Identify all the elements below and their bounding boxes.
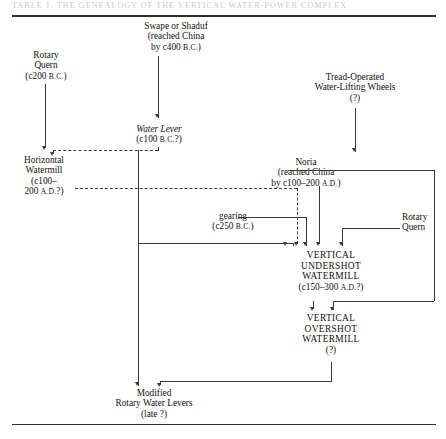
edge-horizontal-watermill-to-undershot-dashed bbox=[75, 188, 297, 189]
overshot-line2: OVERSHOT bbox=[261, 324, 401, 335]
node-vertical-undershot-watermill: VERTICAL UNDERSHOT WATERMILL (c150–300 A… bbox=[261, 250, 401, 292]
overshot-line3: WATERMILL bbox=[261, 334, 401, 345]
swape-title: Swape or Shaduf bbox=[96, 21, 256, 31]
edge-right-rail-vertical bbox=[434, 170, 435, 301]
rq-right-line2: Quern bbox=[402, 222, 446, 232]
edge-gearing-to-undershot bbox=[238, 217, 306, 218]
rq-top-line1: Rotary bbox=[5, 50, 87, 60]
arrowhead-undershot-to-overshot bbox=[310, 307, 314, 311]
undershot-line2: UNDERSHOT bbox=[261, 261, 401, 272]
swape-line2: (reached China bbox=[96, 31, 256, 41]
edge-right-rail-to-overshot bbox=[333, 301, 434, 302]
edge-trunk-branch-drop bbox=[293, 243, 294, 246]
arrowhead-right-rail-to-overshot bbox=[330, 307, 334, 311]
arrowhead-swape-to-water-lever bbox=[155, 114, 159, 118]
water-lever-date: (c100 B.C.?) bbox=[93, 134, 225, 145]
node-gearing: gearing (c250 B.C.) bbox=[196, 211, 270, 232]
node-rotary-quern-top: Rotary Quern (c200 B.C.) bbox=[5, 50, 87, 81]
edge-horizontal-watermill-dashed-drop bbox=[297, 188, 298, 244]
edge-rotary-quern-right-to-undershot bbox=[342, 228, 400, 229]
edge-overshot-to-modified-run bbox=[160, 381, 331, 382]
horiz-line3: (c100– bbox=[4, 176, 84, 186]
arrowhead-tread-wheels-to-noria bbox=[352, 148, 356, 152]
edge-trunk-branch-to-undershot bbox=[138, 243, 293, 244]
noria-line2: (reached China bbox=[250, 167, 362, 177]
arrowhead-trunk-to-modified-levers bbox=[135, 382, 139, 386]
modified-line2: Rotary Water Levers bbox=[84, 398, 224, 408]
swape-line3: by c400 B.C.) bbox=[96, 42, 256, 53]
figure-canvas: TABLE 1. THE GENEALOGY OF THE VERTICAL W… bbox=[0, 0, 446, 439]
arrowhead-rotary-quern-to-horizontal-watermill bbox=[42, 146, 46, 150]
horiz-line4: 200 A.D.?) bbox=[4, 186, 84, 197]
edge-water-lever-dashed-stub bbox=[158, 147, 159, 151]
noria-line3: by c100–200 A.D.) bbox=[250, 178, 362, 189]
edge-overshot-to-modified-drop bbox=[331, 362, 332, 382]
rq-top-line2: Quern bbox=[5, 60, 87, 70]
tread-line1: Tread-Operated bbox=[272, 72, 438, 82]
node-modified-rotary-water-levers: Modified Rotary Water Levers (late ?) bbox=[84, 388, 224, 419]
node-noria: Noria (reached China by c100–200 A.D.) bbox=[250, 157, 362, 188]
top-rule bbox=[12, 15, 436, 17]
edge-tread-wheels-to-noria bbox=[355, 108, 356, 152]
modified-line1: Modified bbox=[84, 388, 224, 398]
arrowhead-trunk-branch-to-undershot bbox=[283, 242, 287, 246]
undershot-line1: VERTICAL bbox=[261, 250, 401, 261]
node-vertical-overshot-watermill: VERTICAL OVERSHOT WATERMILL (?) bbox=[261, 313, 401, 355]
edge-water-lever-to-horizontal-watermill-dashed bbox=[53, 150, 158, 151]
edge-noria-to-right-rail bbox=[288, 170, 434, 171]
arrowhead-rotary-quern-right-to-undershot bbox=[339, 242, 343, 246]
edge-water-lever-trunk bbox=[138, 150, 139, 386]
node-tread-operated-wheels: Tread-Operated Water-Lifting Wheels (?) bbox=[272, 72, 438, 103]
arrowhead-horizontal-watermill-to-undershot bbox=[294, 242, 298, 246]
rq-top-date: (c200 B.C.) bbox=[5, 71, 87, 82]
node-horizontal-watermill: Horizontal Watermill (c100– 200 A.D.?) bbox=[4, 155, 84, 197]
tread-line2: Water-Lifting Wheels bbox=[272, 82, 438, 92]
node-swape-or-shaduf: Swape or Shaduf (reached China by c400 B… bbox=[96, 21, 256, 52]
undershot-line3: WATERMILL bbox=[261, 271, 401, 282]
horiz-line1: Horizontal bbox=[4, 155, 84, 165]
gearing-date: (c250 B.C.) bbox=[196, 221, 270, 232]
overshot-line4: (?) bbox=[261, 345, 401, 355]
edge-rotary-quern-to-horizontal-watermill bbox=[45, 84, 46, 148]
arrowhead-gearing-to-undershot bbox=[303, 242, 307, 246]
modified-line3: (late ?) bbox=[84, 409, 224, 419]
arrowhead-water-lever-to-horizontal-watermill bbox=[50, 152, 54, 156]
edge-swape-to-water-lever bbox=[158, 56, 159, 118]
arrowhead-noria-to-undershot bbox=[316, 242, 320, 246]
noria-title: Noria bbox=[250, 157, 362, 167]
rq-right-line1: Rotary bbox=[402, 212, 446, 222]
node-rotary-quern-right: Rotary Quern bbox=[402, 212, 446, 233]
bottom-rule bbox=[12, 424, 436, 425]
arrowhead-overshot-to-modified-levers bbox=[157, 383, 161, 387]
horiz-line2: Watermill bbox=[4, 165, 84, 175]
figure-title-cropped: TABLE 1. THE GENEALOGY OF THE VERTICAL W… bbox=[12, 1, 436, 13]
node-water-lever: Water Lever (c100 B.C.?) bbox=[93, 124, 225, 145]
overshot-line1: VERTICAL bbox=[261, 313, 401, 324]
edge-noria-to-undershot bbox=[319, 186, 320, 244]
undershot-date: (c150–300 A.D.?) bbox=[261, 282, 401, 293]
tread-line3: (?) bbox=[272, 93, 438, 103]
water-lever-title: Water Lever bbox=[93, 124, 225, 134]
